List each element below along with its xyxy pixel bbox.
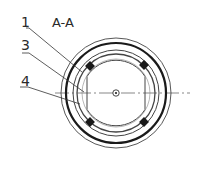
pad-top-left — [85, 61, 95, 71]
part-label-3: 3 — [21, 37, 30, 53]
part-label-4: 4 — [21, 73, 30, 89]
cross-section-drawing: A-A 1 3 4 — [0, 0, 198, 173]
leader-line-4 — [20, 87, 80, 104]
pad-top-right — [139, 60, 149, 70]
leader-line-1 — [26, 28, 82, 72]
center-mark-dot — [115, 92, 117, 94]
part-label-1: 1 — [21, 14, 30, 30]
leader-line-3 — [22, 53, 84, 92]
pad-bottom-right — [139, 117, 149, 127]
section-label: A-A — [52, 15, 74, 30]
